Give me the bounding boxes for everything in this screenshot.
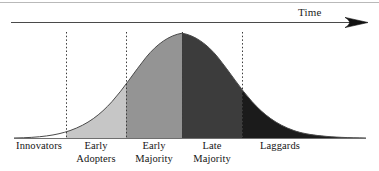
segment-labels: Innovators Early Adopters Early Majority… [0, 140, 379, 171]
segment-label-late-majority: Late Majority [182, 140, 242, 165]
band-late-majority [182, 20, 242, 140]
segment-label-early-adopters: Early Adopters [66, 140, 126, 165]
time-axis-label: Time [298, 6, 322, 18]
band-early-majority [126, 20, 182, 140]
band-innovators [14, 20, 66, 140]
band-early-adopters [66, 20, 126, 140]
segment-label-innovators: Innovators [6, 140, 72, 153]
adoption-curve-figure: Time Innovators Early Adopters Early Maj… [0, 0, 379, 171]
segment-label-early-majority: Early Majority [126, 140, 182, 165]
band-laggards [242, 20, 368, 140]
segment-label-laggards: Laggards [244, 140, 316, 153]
curve-fill-bands [14, 20, 368, 140]
